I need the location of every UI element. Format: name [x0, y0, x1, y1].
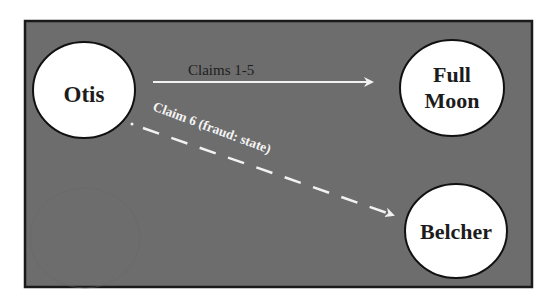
node-belcher: Belcher — [405, 184, 507, 278]
edge-label-claims-1-5: Claims 1-5 — [188, 62, 254, 78]
claims-diagram: Claims 1-5 Claim 6 (fraud: state) Otis F… — [0, 0, 557, 307]
dashed-arrow-start-dot — [131, 123, 134, 126]
node-label-moon: Moon — [425, 88, 480, 113]
node-otis: Otis — [33, 42, 135, 138]
node-full-moon: Full Moon — [400, 40, 504, 136]
node-label-belcher: Belcher — [420, 219, 492, 244]
node-label-otis: Otis — [64, 82, 105, 107]
node-label-full: Full — [433, 62, 471, 87]
